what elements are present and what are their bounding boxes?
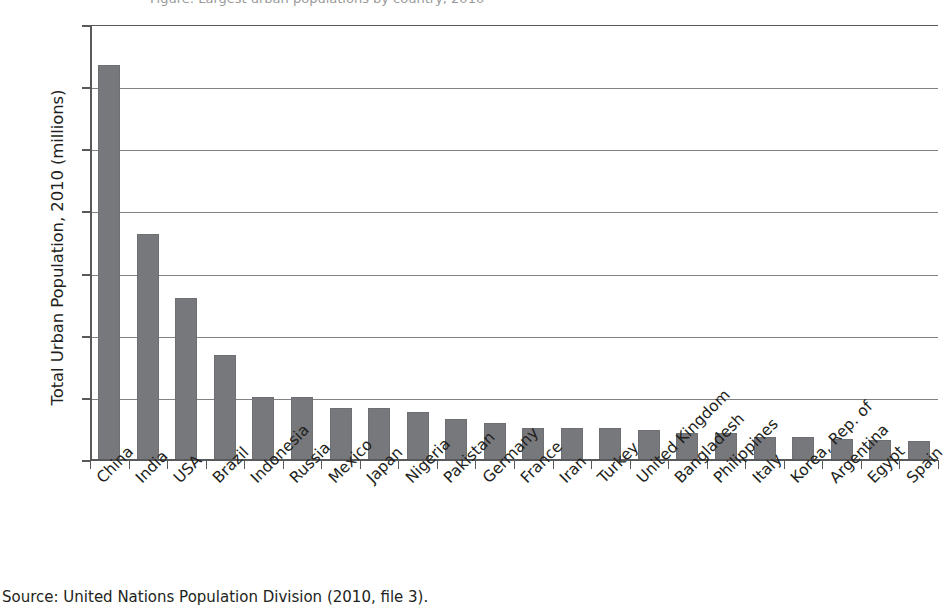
figure-title: Figure: Largest urban populations by cou…	[150, 0, 484, 6]
y-tick-mark-300	[82, 274, 90, 276]
clipped-title-strip: Figure: Largest urban populations by cou…	[0, 0, 938, 8]
bar-usa[interactable]	[175, 298, 197, 460]
y-tick-mark-700	[82, 25, 90, 27]
y-tick-mark-400	[82, 211, 90, 213]
y-tick-mark-100	[82, 398, 90, 400]
y-tick-mark-200	[82, 336, 90, 338]
y-tick-mark-0	[82, 460, 90, 462]
x-tick-mark-3	[206, 460, 207, 469]
y-axis-title: Total Urban Population, 2010 (millions)	[48, 28, 67, 468]
bar-brazil[interactable]	[214, 355, 236, 460]
y-tick-mark-500	[82, 149, 90, 151]
source-note: Source: United Nations Population Divisi…	[2, 588, 428, 606]
y-tick-mark-600	[82, 87, 90, 89]
bar-india[interactable]	[137, 234, 159, 460]
bars-layer	[90, 25, 938, 460]
x-tick-mark-0	[90, 460, 91, 469]
bar-china[interactable]	[98, 65, 120, 460]
x-tick-mark-13	[591, 460, 592, 469]
